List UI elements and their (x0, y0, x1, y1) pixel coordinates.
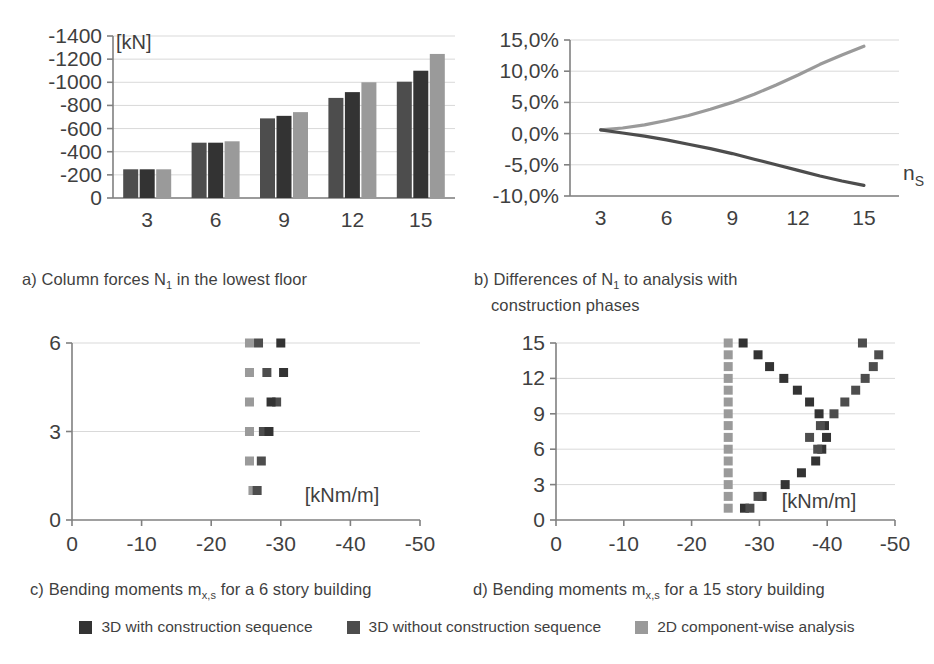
y-tick-label: 0 (533, 508, 545, 531)
bar (361, 82, 376, 198)
y-tick-label: -10,0% (492, 184, 559, 207)
y-tick-label: -1000 (48, 70, 102, 93)
caption-b-line1: b) Differences of N1 to analysis with (474, 270, 738, 288)
chart-c-markers (245, 339, 288, 496)
x-tick-label: -50 (405, 532, 435, 555)
scatter-marker (724, 409, 733, 418)
chart-d-plot: 036912150-10-20-30-40-50[kNm/m] (467, 320, 934, 570)
scatter-marker (724, 504, 733, 513)
x-tick-label: 0 (66, 532, 78, 555)
scatter-marker (262, 368, 271, 377)
bar (430, 54, 445, 198)
caption-b-line2: construction phases (474, 294, 640, 318)
y-tick-label: -600 (60, 117, 102, 140)
y-tick-label: -1200 (48, 47, 102, 70)
y-tick-label: 3 (533, 473, 545, 496)
bar (397, 82, 412, 198)
scatter-marker (267, 398, 276, 407)
y-tick-label: -400 (60, 140, 102, 163)
x-tick-label: 6 (210, 208, 222, 231)
scatter-marker (254, 339, 263, 348)
scatter-marker (811, 457, 820, 466)
legend-swatch-icon (79, 621, 92, 634)
scatter-marker (724, 468, 733, 477)
scatter-marker (869, 362, 878, 371)
y-tick-label: 5,0% (511, 90, 559, 113)
x-tick-label: 0 (550, 532, 562, 555)
caption-chart-b: b) Differences of N1 to analysis with co… (474, 268, 914, 318)
x-axis-label: nS (903, 161, 924, 189)
caption-a-text: a) Column forces N1 in the lowest floor (22, 270, 307, 288)
scatter-marker (724, 445, 733, 454)
y-tick-label: 9 (533, 402, 545, 425)
scatter-marker (797, 468, 806, 477)
scatter-marker (754, 492, 763, 501)
scatter-marker (805, 398, 814, 407)
scatter-marker (276, 339, 285, 348)
scatter-marker (253, 486, 262, 495)
chart-b-gridlines (570, 40, 899, 196)
scatter-marker (724, 350, 733, 359)
y-tick-label: 3 (49, 420, 61, 443)
scatter-marker (813, 445, 822, 454)
chart-a-x-labels: 3691215 (141, 208, 432, 231)
bar (260, 118, 275, 198)
panel-chart-a: 0-200-400-600-800-1000-1200-1400[kN]3691… (0, 0, 467, 260)
y-tick-label: 15 (522, 331, 545, 354)
legend-item-3d-without-construction-sequence: 3D without construction sequence (347, 618, 602, 636)
x-tick-label: 9 (278, 208, 290, 231)
chart-a-y-ticks: 0-200-400-600-800-1000-1200-1400 (48, 24, 113, 209)
chart-a-bars (123, 54, 445, 198)
caption-chart-a: a) Column forces N1 in the lowest floor (22, 268, 452, 294)
bar (293, 112, 308, 198)
scatter-marker (861, 374, 870, 383)
scatter-marker (739, 339, 748, 348)
x-tick-label: -10 (609, 532, 639, 555)
bar (277, 116, 292, 198)
y-tick-label: 0,0% (511, 122, 559, 145)
scatter-marker (279, 368, 288, 377)
x-tick-label: 3 (595, 206, 607, 229)
bar (140, 169, 155, 198)
y-tick-label: 12 (522, 366, 545, 389)
bar (328, 98, 343, 198)
y-tick-label: -5,0% (504, 153, 559, 176)
scatter-marker (245, 339, 254, 348)
scatter-marker (816, 421, 825, 430)
scatter-marker (851, 386, 860, 395)
y-tick-label: 10,0% (499, 59, 559, 82)
x-tick-label: -10 (126, 532, 156, 555)
legend-label: 2D component-wise analysis (657, 618, 854, 636)
chart-c-plot: 0360-10-20-30-40-50[kNm/m] (0, 320, 467, 570)
x-tick-label: 15 (852, 206, 875, 229)
scatter-marker (840, 398, 849, 407)
x-tick-label: 12 (341, 208, 364, 231)
y-tick-label: -1400 (48, 24, 102, 47)
y-tick-label: 15,0% (499, 28, 559, 51)
x-tick-label: -30 (266, 532, 296, 555)
scatter-marker (245, 427, 254, 436)
data-curve (601, 46, 864, 130)
data-curve (601, 130, 864, 186)
scatter-marker (724, 492, 733, 501)
scatter-marker (745, 504, 754, 513)
scatter-marker (245, 368, 254, 377)
panel-chart-d: 036912150-10-20-30-40-50[kNm/m] (467, 320, 934, 570)
bar (192, 143, 207, 198)
scatter-marker (779, 374, 788, 383)
y-tick-label: -800 (60, 93, 102, 116)
y-axis-unit-label: [kN] (116, 31, 152, 53)
legend-label: 3D with construction sequence (101, 618, 312, 636)
x-tick-label: 3 (141, 208, 153, 231)
x-tick-label: -20 (196, 532, 226, 555)
x-tick-label: 15 (409, 208, 432, 231)
scatter-marker (264, 427, 273, 436)
scatter-marker (754, 350, 763, 359)
scatter-marker (822, 433, 831, 442)
caption-d-text: d) Bending moments mx,s for a 15 story b… (473, 580, 825, 598)
bar (225, 141, 240, 198)
scatter-marker (724, 362, 733, 371)
scatter-marker (793, 386, 802, 395)
scatter-marker (805, 433, 814, 442)
figure-legend: 3D with construction sequence 3D without… (0, 618, 934, 636)
